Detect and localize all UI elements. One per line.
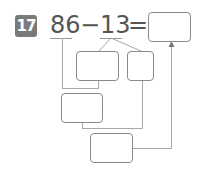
equals-sign: = [128,11,148,39]
problem-number-badge: 17 [15,15,37,37]
operator-minus: − [80,11,100,39]
intermediate-box[interactable] [61,93,103,123]
final-box[interactable] [90,133,133,163]
split-box-a[interactable] [76,51,119,81]
subtrahend: 13 [100,11,131,39]
minuend: 86 [50,11,81,39]
split-box-b[interactable] [127,51,154,81]
answer-box[interactable] [148,12,191,42]
